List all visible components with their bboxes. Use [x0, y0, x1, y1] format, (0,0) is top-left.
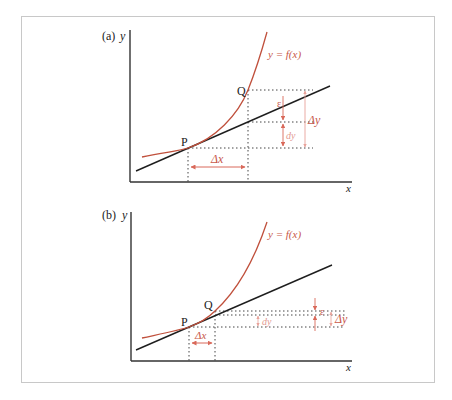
- epsilon-label: ε: [320, 306, 324, 317]
- x-axis-label: x: [345, 182, 351, 194]
- dy-label: dy: [286, 130, 296, 141]
- y-axis-label: y: [119, 29, 126, 43]
- point-p-label: P: [181, 315, 188, 329]
- curve-label: y = f(x): [267, 228, 301, 241]
- delta-x-label: Δx: [194, 329, 206, 341]
- panel-label: (a): [102, 29, 115, 43]
- panel-b: (b) y x y = f(x) P Q Δx dy ε Δy: [102, 208, 352, 373]
- y-axis-label: y: [121, 208, 128, 222]
- tangent-line: [136, 86, 330, 171]
- figure-canvas: (a) y x y = f(x) P Q Δx ε dy Δy: [0, 0, 452, 400]
- tangent-line: [136, 265, 332, 350]
- derivative-figure: (a) y x y = f(x) P Q Δx ε dy Δy: [0, 0, 452, 400]
- point-q-label: Q: [204, 298, 213, 312]
- delta-y-label: Δy: [334, 312, 348, 326]
- x-axis-label: x: [345, 361, 351, 373]
- dy-label: dy: [262, 316, 272, 327]
- curve-label: y = f(x): [267, 48, 301, 61]
- point-q-label: Q: [237, 84, 246, 98]
- delta-x-label: Δx: [210, 152, 224, 166]
- point-p-label: P: [181, 135, 188, 149]
- panel-label: (b): [102, 208, 116, 222]
- delta-y-label: Δy: [307, 113, 321, 127]
- epsilon-label: ε: [277, 98, 281, 109]
- panel-a: (a) y x y = f(x) P Q Δx ε dy Δy: [102, 29, 352, 194]
